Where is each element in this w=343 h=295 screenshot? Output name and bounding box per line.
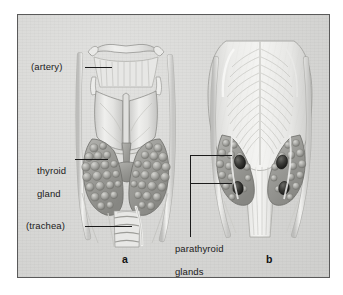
- illustration-plate: (artery) thyroid gland (trachea) parathy…: [17, 14, 330, 278]
- leader-artery: [85, 67, 112, 68]
- panel-a-anterior: [79, 44, 173, 247]
- panel-label-b: b: [266, 253, 272, 265]
- label-thyroid-line-1: thyroid: [37, 165, 66, 176]
- label-artery: (artery): [31, 61, 62, 73]
- trachea-rings: [114, 211, 140, 247]
- panel-b-posterior: [208, 41, 312, 237]
- leader-trachea: [85, 226, 132, 227]
- leader-parathyroid-stem: [190, 155, 191, 237]
- leader-thyroid: [75, 159, 108, 160]
- label-thyroid-gland: thyroid gland: [26, 153, 66, 211]
- label-parathyroid-line-2: glands: [175, 266, 204, 277]
- leader-parathyroid-lower: [190, 183, 232, 184]
- label-parathyroid-line-1: parathyroid: [175, 243, 224, 254]
- label-thyroid-line-2: gland: [37, 188, 61, 199]
- label-parathyroid-glands: parathyroid glands: [164, 231, 224, 278]
- leader-parathyroid-upper: [190, 155, 232, 156]
- panel-label-a: a: [122, 253, 128, 265]
- label-trachea: (trachea): [26, 220, 65, 232]
